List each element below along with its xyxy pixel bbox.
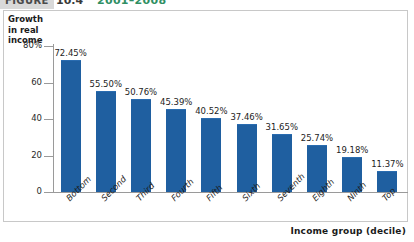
bar-value-label: 45.39% [160, 97, 192, 107]
y-axis-tick [44, 156, 53, 157]
bar[interactable] [201, 118, 221, 192]
bar[interactable] [131, 99, 151, 192]
bar-item[interactable] [61, 60, 81, 192]
bar[interactable] [61, 60, 81, 192]
figure-year-range: 2001–2008 [97, 0, 166, 9]
bar-value-label: 40.52% [195, 106, 227, 116]
y-axis-tick-label: 0 [2, 186, 42, 196]
figure-header-strip: FIGURE 10.4 2001–2008 [0, 0, 414, 9]
figure-container: FIGURE 10.4 2001–2008 Growth in real inc… [0, 0, 414, 242]
y-axis-tick [44, 46, 53, 47]
y-axis-tick-label: 40 [2, 113, 42, 123]
figure-number: 10.4 [56, 0, 83, 9]
x-axis-title: Income group (decile) [290, 226, 406, 236]
y-axis-tick-label: 80% [2, 40, 42, 50]
bar-value-label: 37.46% [230, 112, 262, 122]
y-axis-tick [44, 192, 53, 193]
bar[interactable] [96, 91, 116, 192]
bar-value-label: 31.65% [266, 122, 298, 132]
bar-value-label: 25.74% [301, 133, 333, 143]
bar-item[interactable] [201, 118, 221, 192]
bar-value-label: 19.18% [336, 145, 368, 155]
figure-tab-label: FIGURE [0, 0, 54, 9]
bar-item[interactable] [96, 91, 116, 192]
bar-item[interactable] [131, 99, 151, 192]
y-axis-tick [44, 119, 53, 120]
bar-value-label: 55.50% [90, 79, 122, 89]
y-axis-tick-label: 20 [2, 150, 42, 160]
bar-item[interactable] [166, 109, 186, 192]
y-axis-tick-label: 60 [2, 77, 42, 87]
bar-value-label: 11.37% [371, 159, 403, 169]
bar-value-label: 72.45% [54, 48, 86, 58]
bar-series: 72.45%55.50%50.76%45.39%40.52%37.46%31.6… [53, 46, 405, 192]
bar[interactable] [166, 109, 186, 192]
y-axis-tick [44, 83, 53, 84]
bar-value-label: 50.76% [125, 87, 157, 97]
